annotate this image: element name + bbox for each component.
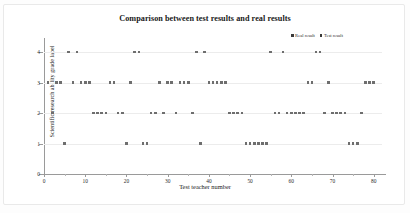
- data-point: [372, 81, 375, 84]
- data-point: [142, 142, 145, 145]
- data-point: [195, 51, 198, 54]
- data-point: [315, 51, 318, 54]
- data-point: [208, 81, 211, 84]
- data-point: [105, 112, 108, 115]
- chart-figure: Comparison between test results and real…: [0, 0, 410, 213]
- data-point: [175, 112, 178, 115]
- data-point: [162, 112, 165, 115]
- y-tick-label-4: 4: [29, 49, 40, 55]
- plot-area: Scientific research ability grade label …: [44, 40, 382, 174]
- data-point: [368, 81, 371, 84]
- y-tick-label-3: 3: [29, 79, 40, 85]
- data-point: [59, 81, 62, 84]
- x-tick-35: [188, 174, 189, 176]
- data-point: [191, 112, 194, 115]
- data-point: [364, 81, 367, 84]
- data-point: [257, 142, 260, 145]
- data-point: [187, 81, 190, 84]
- x-tick-40: [209, 174, 210, 177]
- data-point: [183, 81, 186, 84]
- data-point: [113, 81, 116, 84]
- gridline-y-4: [44, 52, 382, 53]
- x-tick-65: [312, 174, 313, 176]
- data-point: [344, 112, 347, 115]
- data-point: [76, 51, 79, 54]
- data-point: [224, 81, 227, 84]
- data-point: [339, 112, 342, 115]
- data-point: [294, 112, 297, 115]
- y-tick-label-1: 1: [29, 140, 40, 146]
- data-point: [232, 112, 235, 115]
- x-tick-15: [106, 174, 107, 176]
- data-point: [311, 81, 314, 84]
- data-point: [216, 81, 219, 84]
- x-tick-80: [374, 174, 375, 177]
- x-tick-25: [147, 174, 148, 176]
- x-tick-55: [271, 174, 272, 176]
- x-tick-45: [229, 174, 230, 176]
- data-point: [84, 81, 87, 84]
- data-point: [133, 51, 136, 54]
- data-point: [88, 81, 91, 84]
- x-tick-70: [333, 174, 334, 177]
- x-tick-75: [353, 174, 354, 176]
- data-point: [150, 112, 153, 115]
- legend-label-real-result: Real result: [295, 33, 315, 38]
- data-point: [335, 112, 338, 115]
- data-point: [47, 81, 50, 84]
- data-point: [307, 81, 310, 84]
- data-point: [203, 51, 206, 54]
- data-point: [282, 51, 285, 54]
- chart-title: Comparison between test results and real…: [0, 14, 410, 23]
- x-axis-title: Test teacher number: [0, 183, 410, 190]
- data-point: [96, 112, 99, 115]
- data-point: [348, 142, 351, 145]
- data-point: [55, 81, 58, 84]
- data-point: [261, 142, 264, 145]
- data-point: [302, 112, 305, 115]
- x-tick-5: [65, 174, 66, 176]
- x-tick-60: [291, 174, 292, 177]
- legend-marker-icon: [320, 34, 323, 37]
- data-point: [241, 112, 244, 115]
- data-point: [220, 81, 223, 84]
- data-point: [298, 112, 301, 115]
- x-tick-10: [85, 174, 86, 177]
- data-point: [158, 81, 161, 84]
- legend-marker-icon: [291, 34, 294, 37]
- data-point: [212, 81, 215, 84]
- data-point: [290, 112, 293, 115]
- y-tick-label-2: 2: [29, 110, 40, 116]
- data-point: [236, 112, 239, 115]
- data-point: [319, 51, 322, 54]
- data-point: [265, 142, 268, 145]
- data-point: [117, 112, 120, 115]
- data-point: [100, 112, 103, 115]
- data-point: [109, 81, 112, 84]
- data-point: [331, 112, 334, 115]
- data-point: [72, 81, 75, 84]
- data-point: [170, 81, 173, 84]
- legend-entry-test-result: Test result: [320, 33, 343, 38]
- data-point: [278, 112, 281, 115]
- data-point: [80, 81, 83, 84]
- x-axis-line: [42, 174, 386, 175]
- x-tick-20: [126, 174, 127, 177]
- data-point: [360, 112, 363, 115]
- data-point: [228, 112, 231, 115]
- data-point: [63, 142, 66, 145]
- data-point: [245, 142, 248, 145]
- data-point: [154, 112, 157, 115]
- legend-entry-real-result: Real result: [291, 33, 315, 38]
- data-point: [121, 112, 124, 115]
- data-point: [323, 112, 326, 115]
- data-point: [352, 142, 355, 145]
- x-tick-30: [168, 174, 169, 177]
- data-point: [269, 51, 272, 54]
- data-point: [286, 112, 289, 115]
- data-point: [129, 81, 132, 84]
- legend-label-test-result: Test result: [324, 33, 343, 38]
- data-point: [179, 81, 182, 84]
- data-point: [51, 112, 54, 115]
- data-point: [249, 142, 252, 145]
